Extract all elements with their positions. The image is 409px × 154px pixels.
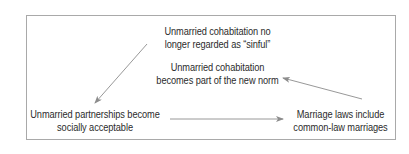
node-label-line: common-law marriages bbox=[290, 121, 391, 134]
node-label-line: longer regarded as “sinful” bbox=[149, 38, 285, 51]
node-label-line: becomes part of the new norm bbox=[149, 74, 285, 87]
node-label-line: Unmarried partnerships become bbox=[29, 108, 161, 121]
node-label-line: Unmarried cohabitation no bbox=[149, 25, 285, 38]
node-label-line: Marriage laws include bbox=[290, 108, 391, 121]
node-socially-acceptable: Unmarried partnerships become socially a… bbox=[29, 108, 161, 134]
node-label-line: Unmarried cohabitation bbox=[149, 61, 285, 74]
node-label-line: socially acceptable bbox=[29, 121, 161, 134]
node-no-longer-sinful: Unmarried cohabitation no longer regarde… bbox=[149, 25, 285, 51]
node-new-norm: Unmarried cohabitation becomes part of t… bbox=[149, 61, 285, 87]
node-marriage-laws: Marriage laws include common-law marriag… bbox=[290, 108, 391, 134]
